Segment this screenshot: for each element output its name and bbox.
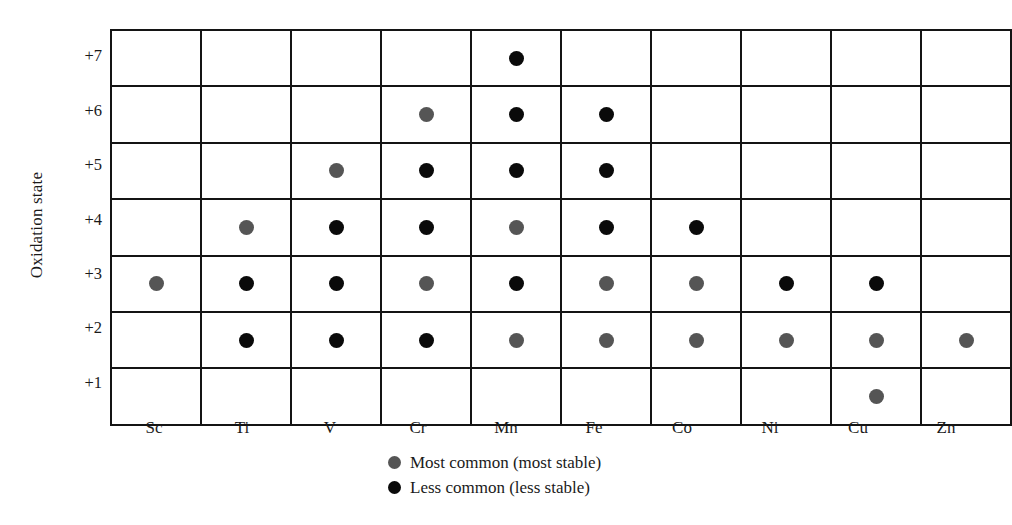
grid-cell-Sc-plus3 bbox=[111, 256, 201, 312]
grid-cell-Cu-plus1 bbox=[831, 368, 921, 424]
grid-row-plus4 bbox=[111, 199, 1011, 255]
marker-dot-most bbox=[599, 276, 614, 291]
grid-cell-Ni-plus7 bbox=[741, 30, 831, 86]
grid-cell-Co-plus7 bbox=[651, 30, 741, 86]
grid-cell-Cr-plus7 bbox=[381, 30, 471, 86]
marker-dot-less bbox=[329, 333, 344, 348]
marker-dot-less bbox=[419, 163, 434, 178]
marker-dot-less bbox=[509, 276, 524, 291]
grid-cell-Zn-plus1 bbox=[921, 368, 1011, 424]
grid-cell-V-plus5 bbox=[291, 143, 381, 199]
marker-dot-most bbox=[869, 389, 884, 404]
grid-cell-Cr-plus3 bbox=[381, 256, 471, 312]
grid-cell-Fe-plus2 bbox=[561, 312, 651, 368]
grid-cell-Mn-plus1 bbox=[471, 368, 561, 424]
marker-dot-most bbox=[959, 333, 974, 348]
legend-dot-most-icon bbox=[388, 456, 401, 469]
marker-dot-less bbox=[419, 220, 434, 235]
grid-cell-Cr-plus5 bbox=[381, 143, 471, 199]
grid-cell-Fe-plus7 bbox=[561, 30, 651, 86]
grid-cell-Cu-plus2 bbox=[831, 312, 921, 368]
marker-dot-less bbox=[599, 163, 614, 178]
grid-cell-Zn-plus4 bbox=[921, 199, 1011, 255]
legend-item-less: Less common (less stable) bbox=[388, 475, 601, 500]
grid-cell-Cu-plus7 bbox=[831, 30, 921, 86]
grid-cell-Sc-plus5 bbox=[111, 143, 201, 199]
marker-dot-less bbox=[509, 163, 524, 178]
x-tick-Mn: Mn bbox=[462, 418, 550, 438]
grid-cell-Sc-plus4 bbox=[111, 199, 201, 255]
marker-dot-most bbox=[509, 333, 524, 348]
grid-cell-Ti-plus2 bbox=[201, 312, 291, 368]
grid-cell-Ti-plus5 bbox=[201, 143, 291, 199]
grid-cell-Sc-plus7 bbox=[111, 30, 201, 86]
grid-cell-Zn-plus7 bbox=[921, 30, 1011, 86]
marker-dot-less bbox=[599, 220, 614, 235]
x-tick-Cu: Cu bbox=[814, 418, 902, 438]
marker-dot-less bbox=[329, 276, 344, 291]
grid-cell-Cu-plus4 bbox=[831, 199, 921, 255]
grid-cell-Sc-plus6 bbox=[111, 86, 201, 142]
grid-cell-Ti-plus3 bbox=[201, 256, 291, 312]
marker-dot-less bbox=[509, 107, 524, 122]
marker-dot-most bbox=[509, 220, 524, 235]
grid-cell-V-plus6 bbox=[291, 86, 381, 142]
marker-dot-less bbox=[869, 276, 884, 291]
y-tick-plus4: +4 bbox=[58, 212, 102, 229]
grid-cell-Fe-plus4 bbox=[561, 199, 651, 255]
grid-row-plus3 bbox=[111, 256, 1011, 312]
marker-dot-less bbox=[239, 276, 254, 291]
y-tick-plus7: +7 bbox=[58, 48, 102, 65]
grid-cell-Zn-plus6 bbox=[921, 86, 1011, 142]
grid-cell-Mn-plus5 bbox=[471, 143, 561, 199]
y-tick-plus5: +5 bbox=[58, 157, 102, 174]
grid-cell-Mn-plus2 bbox=[471, 312, 561, 368]
grid-row-plus1 bbox=[111, 368, 1011, 424]
marker-dot-less bbox=[419, 333, 434, 348]
grid-cell-Fe-plus6 bbox=[561, 86, 651, 142]
marker-dot-less bbox=[239, 333, 254, 348]
x-tick-Ni: Ni bbox=[726, 418, 814, 438]
y-tick-plus2: +2 bbox=[58, 320, 102, 337]
marker-dot-most bbox=[329, 163, 344, 178]
marker-dot-less bbox=[779, 276, 794, 291]
grid-cell-V-plus3 bbox=[291, 256, 381, 312]
marker-dot-less bbox=[509, 51, 524, 66]
grid-cell-Fe-plus1 bbox=[561, 368, 651, 424]
grid-cell-Mn-plus6 bbox=[471, 86, 561, 142]
marker-dot-most bbox=[419, 276, 434, 291]
chart-legend: Most common (most stable)Less common (le… bbox=[388, 450, 601, 500]
grid-cell-V-plus2 bbox=[291, 312, 381, 368]
marker-dot-less bbox=[599, 107, 614, 122]
chart-grid bbox=[110, 29, 990, 410]
grid-cell-Cr-plus2 bbox=[381, 312, 471, 368]
oxidation-state-grid bbox=[110, 29, 1012, 426]
grid-cell-Cr-plus6 bbox=[381, 86, 471, 142]
y-tick-plus1: +1 bbox=[58, 375, 102, 392]
marker-dot-most bbox=[779, 333, 794, 348]
marker-dot-most bbox=[689, 276, 704, 291]
y-tick-plus6: +6 bbox=[58, 103, 102, 120]
legend-label: Most common (most stable) bbox=[410, 453, 601, 473]
grid-cell-Zn-plus3 bbox=[921, 256, 1011, 312]
x-tick-Cr: Cr bbox=[374, 418, 462, 438]
y-axis-title: Oxidation state bbox=[27, 110, 47, 340]
grid-cell-Sc-plus2 bbox=[111, 312, 201, 368]
grid-cell-Mn-plus7 bbox=[471, 30, 561, 86]
grid-cell-Cr-plus4 bbox=[381, 199, 471, 255]
marker-dot-most bbox=[689, 333, 704, 348]
grid-cell-Cu-plus6 bbox=[831, 86, 921, 142]
grid-cell-Cu-plus3 bbox=[831, 256, 921, 312]
grid-cell-Ti-plus4 bbox=[201, 199, 291, 255]
grid-cell-Ni-plus1 bbox=[741, 368, 831, 424]
grid-cell-Co-plus3 bbox=[651, 256, 741, 312]
grid-cell-Ni-plus3 bbox=[741, 256, 831, 312]
grid-cell-Fe-plus5 bbox=[561, 143, 651, 199]
grid-cell-Zn-plus2 bbox=[921, 312, 1011, 368]
legend-item-most: Most common (most stable) bbox=[388, 450, 601, 475]
grid-cell-Co-plus4 bbox=[651, 199, 741, 255]
x-tick-Fe: Fe bbox=[550, 418, 638, 438]
x-tick-Zn: Zn bbox=[902, 418, 990, 438]
grid-cell-V-plus4 bbox=[291, 199, 381, 255]
